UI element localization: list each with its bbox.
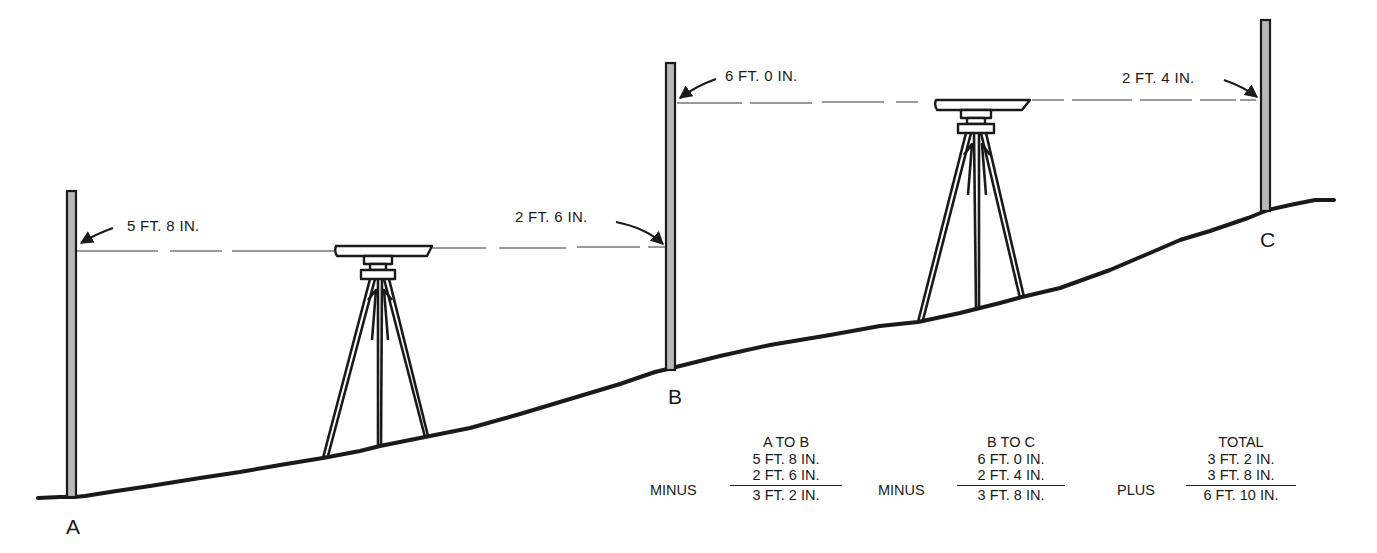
reading-b-backsight: 6 FT. 0 IN. (725, 67, 798, 84)
calc-line2: 2 FT. 6 IN. (730, 467, 842, 486)
point-label-c: C (1260, 228, 1275, 252)
arrow-b-foresight (616, 222, 663, 244)
operator-a-to-b: MINUS (650, 482, 697, 498)
calc-result: 3 FT. 8 IN. (957, 487, 1065, 504)
tripod-level-icon (323, 246, 432, 458)
ground-line (38, 200, 1334, 498)
operator-total: PLUS (1117, 482, 1155, 498)
calc-line1: 3 FT. 2 IN. (1186, 451, 1296, 468)
reading-a-backsight: 5 FT. 8 IN. (127, 217, 200, 234)
arrow-c-foresight (1224, 80, 1257, 97)
rod-a (67, 191, 76, 497)
calc-line1: 6 FT. 0 IN. (957, 451, 1065, 468)
rod-b (666, 63, 675, 370)
reading-b-foresight: 2 FT. 6 IN. (515, 208, 588, 225)
reading-c-foresight: 2 FT. 4 IN. (1122, 69, 1195, 86)
tripod-level-icon (918, 100, 1030, 322)
calc-line1: 5 FT. 8 IN. (730, 451, 842, 468)
calc-b-to-c: B TO C 6 FT. 0 IN. 2 FT. 4 IN. 3 FT. 8 I… (957, 434, 1065, 503)
arrow-b-backsight (680, 79, 716, 98)
calc-result: 6 FT. 10 IN. (1186, 487, 1296, 504)
arrow-a-backsight (81, 228, 113, 243)
calc-total: TOTAL 3 FT. 2 IN. 3 FT. 8 IN. 6 FT. 10 I… (1186, 434, 1296, 503)
calc-line2: 2 FT. 4 IN. (957, 467, 1065, 486)
calc-heading: A TO B (730, 434, 842, 451)
operator-b-to-c: MINUS (878, 482, 925, 498)
calc-heading: TOTAL (1186, 434, 1296, 451)
calc-a-to-b: A TO B 5 FT. 8 IN. 2 FT. 6 IN. 3 FT. 2 I… (730, 434, 842, 503)
point-label-a: A (66, 515, 80, 539)
calc-result: 3 FT. 2 IN. (730, 487, 842, 504)
point-label-b: B (668, 385, 682, 409)
rod-c (1261, 20, 1270, 211)
calc-line2: 3 FT. 8 IN. (1186, 467, 1296, 486)
calc-heading: B TO C (957, 434, 1065, 451)
